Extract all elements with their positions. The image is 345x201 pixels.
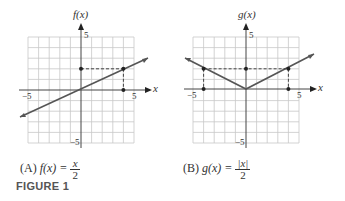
figure-label: FIGURE 1 [16, 180, 69, 192]
tick-label-x-pos: 5 [297, 90, 302, 100]
y-axis-arrow-icon [243, 23, 249, 30]
function-line [185, 54, 314, 89]
caption-b: (B) g(x) = |x|2 [183, 158, 250, 181]
x-axis-arrow-icon [310, 86, 317, 92]
x-axis-label: x [318, 81, 323, 93]
tick-label-y-pos: 5 [249, 30, 254, 40]
tick-label-x-neg: −5 [187, 90, 197, 100]
tick-label-y-neg: −5 [235, 137, 245, 147]
graph-panel-b [0, 0, 345, 175]
y-axis-label: g(x) [238, 8, 256, 20]
